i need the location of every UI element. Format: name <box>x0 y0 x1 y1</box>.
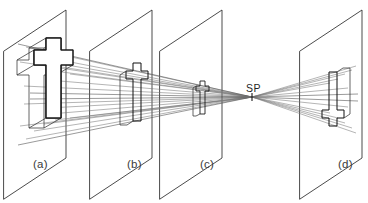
plane-label-b: (b) <box>127 159 142 171</box>
object-3d-cross-solid <box>17 38 73 128</box>
plane-label-c: (c) <box>200 159 214 171</box>
plane-b-outline <box>90 10 152 199</box>
station-point-label: SP <box>246 83 261 94</box>
figure-canvas <box>0 0 368 203</box>
plane-d-outline <box>300 10 362 199</box>
perspective-projection-figure: (a) (b) (c) (d) SP <box>0 0 368 203</box>
plane-label-d: (d) <box>338 159 353 171</box>
plane-label-a: (a) <box>33 159 48 171</box>
